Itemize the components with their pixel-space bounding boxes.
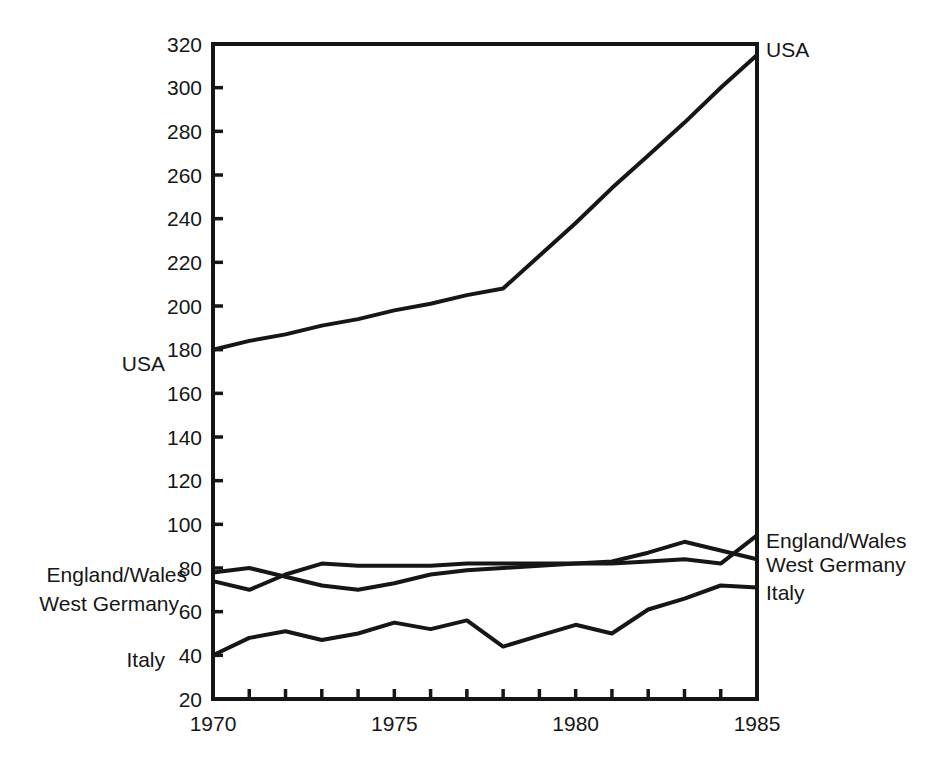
y-tick-label: 220 [167,251,202,274]
y-tick-label: 200 [167,295,202,318]
x-tick-label: 1975 [371,712,418,735]
y-tick-label: 40 [179,644,202,667]
y-tick-label: 100 [167,513,202,536]
series-label-right-usa: USA [766,38,809,61]
series-line-west-germany [213,542,757,590]
series-label-right-west-germany: West Germany [766,553,906,576]
y-tick-label: 240 [167,207,202,230]
line-chart-canvas: 2040608010012014016018020022024026028030… [0,0,941,770]
y-tick-label: 20 [179,688,202,711]
series-label-left-italy: Italy [126,648,165,671]
y-tick-label: 280 [167,120,202,143]
series-label-right-england-wales: England/Wales [766,529,906,552]
y-tick-label: 120 [167,469,202,492]
y-tick-label: 260 [167,164,202,187]
y-tick-label: 160 [167,382,202,405]
x-tick-label: 1970 [190,712,237,735]
series-label-left-usa: USA [122,352,165,375]
series-line-italy [213,586,757,656]
series-label-left-england-wales: England/Wales [47,563,187,586]
scanned-line-chart-figure: 2040608010012014016018020022024026028030… [0,0,941,770]
x-tick-label: 1985 [734,712,781,735]
x-tick-label: 1980 [552,712,599,735]
series-line-usa [213,55,757,350]
y-tick-label: 320 [167,33,202,56]
series-label-left-west-germany: West Germany [39,592,179,615]
y-tick-label: 300 [167,76,202,99]
y-tick-label: 60 [179,600,202,623]
y-tick-label: 180 [167,338,202,361]
y-tick-label: 140 [167,426,202,449]
series-label-right-italy: Italy [766,581,805,604]
